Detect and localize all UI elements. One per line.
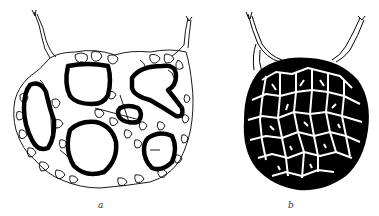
panel-b-illustration [200, 0, 379, 216]
panel-b-label: b [288, 200, 294, 210]
panel-a-label: a [98, 200, 103, 210]
panel-b: b [200, 0, 379, 216]
panel-a-illustration [0, 0, 200, 216]
panel-a: a [0, 0, 200, 216]
